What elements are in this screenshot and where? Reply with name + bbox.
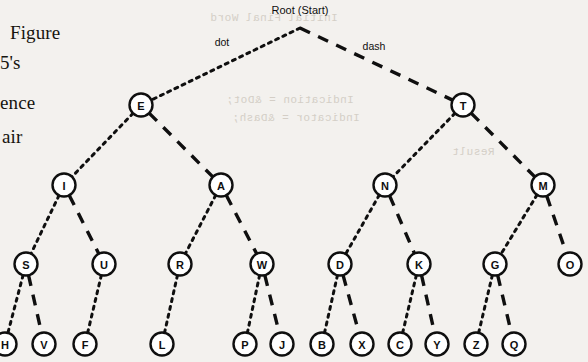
- node-label-H: H: [1, 339, 9, 351]
- edge-N-to-K-dash: [390, 196, 415, 254]
- node-label-X: X: [358, 339, 366, 351]
- node-label-O: O: [566, 259, 575, 271]
- tree-node-E[interactable]: E: [130, 94, 153, 117]
- node-label-B: B: [318, 339, 326, 351]
- node-label-U: U: [100, 259, 108, 271]
- tree-node-G[interactable]: G: [484, 253, 507, 276]
- edge-A-to-W-dash: [226, 195, 256, 254]
- edge-S-to-V-dash: [29, 275, 42, 333]
- morse-code-binary-tree: ETIANMSURWDKGOHVFLPJBXCYZQRoot (Start)do…: [0, 0, 588, 362]
- tree-node-Y[interactable]: Y: [426, 333, 449, 356]
- edge-W-to-J-dash: [265, 275, 279, 333]
- tree-node-O[interactable]: O: [559, 253, 582, 276]
- node-label-Y: Y: [433, 339, 441, 351]
- tree-node-L[interactable]: L: [151, 333, 174, 356]
- node-label-K: K: [415, 259, 423, 271]
- tree-node-S[interactable]: S: [15, 253, 38, 276]
- tree-node-J[interactable]: J: [271, 333, 294, 356]
- edge-label-dash: dash: [363, 40, 386, 52]
- tree-node-A[interactable]: A: [210, 174, 233, 197]
- node-label-Z: Z: [473, 339, 480, 351]
- edge-U-to-F-dot: [88, 275, 102, 333]
- edge-I-to-U-dash: [69, 195, 99, 253]
- tree-edges: [8, 28, 566, 333]
- edge-R-to-L-dot: [165, 275, 178, 333]
- edge-D-to-X-dash: [343, 275, 359, 333]
- tree-node-V[interactable]: V: [33, 333, 56, 356]
- node-label-L: L: [159, 339, 166, 351]
- edge-W-to-P-dot: [247, 275, 259, 333]
- node-label-T: T: [460, 100, 467, 112]
- edge-label-dot: dot: [215, 36, 230, 48]
- tree-node-Z[interactable]: Z: [465, 333, 488, 356]
- tree-node-Q[interactable]: Q: [503, 333, 526, 356]
- tree-node-W[interactable]: W: [251, 253, 274, 276]
- node-label-S: S: [22, 259, 29, 271]
- edge-M-to-O-dash: [547, 196, 567, 253]
- tree-node-C[interactable]: C: [389, 333, 412, 356]
- node-label-R: R: [176, 259, 184, 271]
- tree-node-I[interactable]: I: [53, 174, 76, 197]
- edge-T-to-N-dot: [393, 113, 455, 177]
- node-label-D: D: [336, 259, 344, 271]
- edge-G-to-Z-dot: [479, 275, 493, 333]
- node-label-A: A: [217, 180, 225, 192]
- node-label-E: E: [137, 100, 144, 112]
- node-label-P: P: [241, 339, 248, 351]
- tree-node-T[interactable]: T: [452, 94, 475, 117]
- tree-node-N[interactable]: N: [374, 174, 397, 197]
- tree-node-U[interactable]: U: [93, 253, 116, 276]
- node-label-J: J: [279, 339, 285, 351]
- tree-node-P[interactable]: P: [234, 333, 257, 356]
- edge-K-to-C-dot: [403, 275, 417, 333]
- tree-node-B[interactable]: B: [311, 333, 334, 356]
- node-label-I: I: [62, 180, 65, 192]
- node-label-W: W: [257, 259, 268, 271]
- tree-node-K[interactable]: K: [408, 253, 431, 276]
- root-label: Root (Start): [272, 4, 329, 16]
- node-label-N: N: [381, 180, 389, 192]
- edge-N-to-D-dot: [346, 195, 380, 254]
- edge-E-to-A-dash: [149, 113, 213, 177]
- tree-node-H[interactable]: H: [0, 333, 17, 356]
- tree-node-M[interactable]: M: [532, 174, 555, 197]
- edge-K-to-Y-dash: [422, 275, 435, 333]
- tree-node-D[interactable]: D: [329, 253, 352, 276]
- edge-A-to-R-dot: [185, 195, 215, 254]
- edge-E-to-I-dot: [72, 113, 133, 176]
- edge-G-to-Q-dash: [498, 275, 512, 333]
- node-label-M: M: [538, 180, 547, 192]
- tree-node-F[interactable]: F: [74, 333, 97, 356]
- edge-T-to-M-dash: [471, 113, 535, 177]
- edge-D-to-B-dot: [325, 275, 338, 333]
- tree-nodes: ETIANMSURWDKGOHVFLPJBXCYZQ: [0, 94, 582, 356]
- node-label-C: C: [396, 339, 404, 351]
- node-label-Q: Q: [510, 339, 519, 351]
- node-label-G: G: [491, 259, 500, 271]
- tree-node-R[interactable]: R: [169, 253, 192, 276]
- edge-S-to-H-dot: [8, 275, 23, 333]
- edge-M-to-G-dot: [501, 195, 537, 254]
- tree-node-X[interactable]: X: [351, 333, 374, 356]
- node-label-V: V: [40, 339, 48, 351]
- node-label-F: F: [82, 339, 89, 351]
- edge-I-to-S-dot: [31, 195, 59, 253]
- edge-root-to-T-dash: [300, 28, 453, 100]
